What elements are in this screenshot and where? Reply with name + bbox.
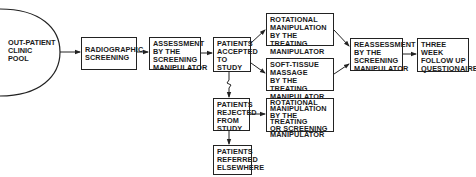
patients-accepted-box: PATIENTS ACCEPTED TO STUDY <box>213 37 251 72</box>
pool-label: OUT-PATIENT CLINIC POOL <box>8 39 56 63</box>
rotational-manipulation-rejected-box: ROTATIONAL MANIPULATION BY THE TREATING … <box>266 98 334 132</box>
patients-rejected-box: PATIENTS REJECTED FROM STUDY <box>213 98 250 131</box>
follow-up-questionnaire-box: THREE WEEK FOLLOW UP QUESTIONAIRE <box>417 38 469 72</box>
reassessment-box: REASSESSMENT BY THE SCREENING MANIPULATO… <box>350 38 403 71</box>
patients-referred-box: PATIENTS REFERRED ELSEWHERE <box>213 145 252 175</box>
assessment-box: ASSESSMENT BY THE SCREENING MANIPULATOR <box>149 37 201 70</box>
radiographic-screening-box: RADIOGRAPHIC SCREENING <box>81 37 137 70</box>
rotational-manipulation-box: ROTATIONAL MANIPULATION BY THE TREATING … <box>266 13 334 46</box>
soft-tissue-massage-box: SOFT-TISSUE MASSAGE BY THE TREATING MANI… <box>266 58 334 91</box>
